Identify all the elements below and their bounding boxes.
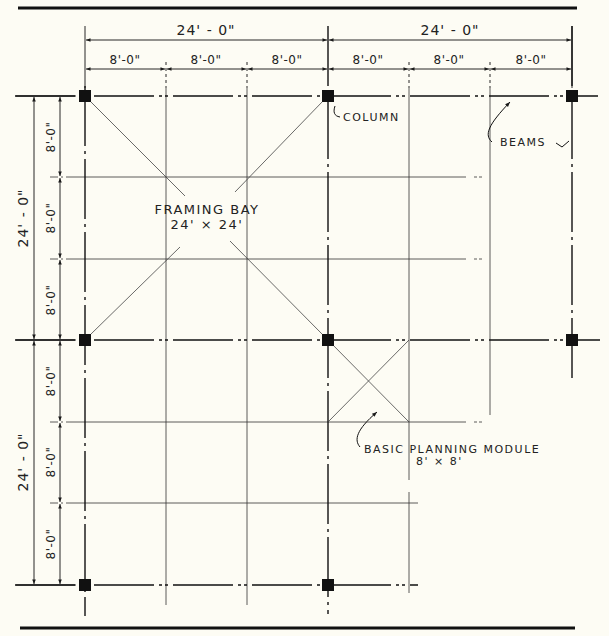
top-module-dim-1: 8'-0" (110, 53, 141, 67)
column-c2 (566, 334, 578, 346)
left-module-dim-3: 8'-0" (44, 285, 58, 316)
column-a1 (79, 90, 91, 102)
top-module-dim-4: 8'-0" (353, 53, 384, 67)
framing-bay-label: FRAMING BAY (154, 202, 259, 217)
top-module-dim-5: 8'-0" (434, 53, 465, 67)
column-b3 (322, 579, 334, 591)
framing-plan-diagram: 24' - 0" 24' - 0" 8'-0" 8'-0" 8'-0" 8'-0… (0, 0, 609, 636)
planning-module-diagonals (328, 340, 409, 422)
top-module-dim-2: 8'-0" (191, 53, 222, 67)
top-overall-dim-2: 24' - 0" (421, 22, 480, 38)
left-module-dim-4: 8'-0" (44, 366, 58, 397)
column-a2 (79, 334, 91, 346)
column-leader-line (334, 106, 340, 117)
column-label: COLUMN (343, 111, 400, 124)
beams-trailing-tick (556, 141, 569, 147)
left-overall-dim-1: 24' - 0" (15, 189, 31, 248)
column-b1 (322, 90, 334, 102)
left-overall-dim-2: 24' - 0" (15, 433, 31, 492)
beams-horizontal (15, 96, 600, 585)
column-b2 (322, 334, 334, 346)
framing-bay-size: 24' × 24' (171, 217, 244, 232)
left-module-dim-5: 8'-0" (44, 447, 58, 478)
beams-label: BEAMS (500, 136, 546, 149)
left-module-dim-2: 8'-0" (44, 203, 58, 234)
top-module-dim-6: 8'-0" (516, 53, 547, 67)
left-module-dim-1: 8'-0" (44, 122, 58, 153)
left-module-dim-6: 8'-0" (44, 529, 58, 560)
module-leader-arrow (357, 412, 377, 447)
column-a3 (79, 579, 91, 591)
column-c1 (566, 90, 578, 102)
top-overall-dim-1: 24' - 0" (177, 22, 236, 38)
planning-module-size: 8' × 8' (416, 455, 463, 468)
top-module-dim-3: 8'-0" (272, 53, 303, 67)
